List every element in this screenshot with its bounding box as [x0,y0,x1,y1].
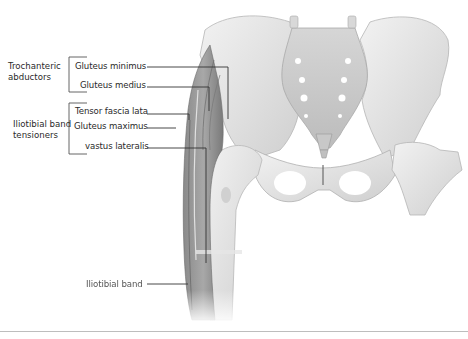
group-label-line2: tensioners [13,130,71,141]
label-gluteus-minimus: Gluteus minimus [75,61,146,71]
bottom-divider [0,331,468,332]
label-gluteus-maximus: Gluteus maximus [74,121,148,131]
label-iliotibial-band: Iliotibial band [86,279,143,289]
group-label-iliotibial-band-tensioners: Iliotibial band tensioners [13,119,71,141]
group-label-line2: abductors [8,72,61,83]
label-vastus-lateralis: vastus lateralis [85,141,149,151]
group-label-line1: Iliotibial band [13,119,71,130]
label-gluteus-medius: Gluteus medius [80,80,146,90]
pelvis [200,16,462,240]
anatomy-illustration [0,0,468,339]
label-tensor-fascia-lata: Tensor fascia lata [75,106,148,116]
group-label-line1: Trochanteric [8,61,61,72]
group-label-trochanteric-abductors: Trochanteric abductors [8,61,61,83]
